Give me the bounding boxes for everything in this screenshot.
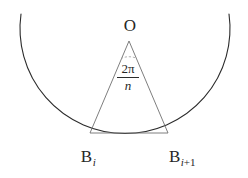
fraction-denominator: n (117, 78, 139, 93)
label-center-O: O (0, 17, 248, 34)
label-angle-fraction: 2π n (0, 62, 248, 93)
label-vertex-bi-plus-1: Bi+1 (152, 148, 212, 165)
angle-arc-marker (121, 57, 137, 59)
label-center-O-text: O (124, 17, 136, 34)
fraction: 2π n (117, 62, 139, 93)
subscript-addend: 1 (190, 156, 196, 168)
fraction-numerator: 2π (117, 62, 139, 77)
label-vertex-bi-base: B (81, 147, 92, 166)
label-vertex-bi-plus-1-subscript: i+1 (181, 156, 196, 168)
label-vertex-bi-subscript: i (93, 156, 96, 168)
label-vertex-bi: Bi (64, 148, 112, 165)
label-vertex-bi-plus-1-base: B (169, 147, 180, 166)
geometry-figure: O 2π n Bi Bi+1 (0, 0, 248, 178)
